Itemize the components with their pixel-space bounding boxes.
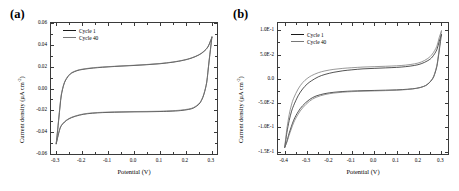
panel-b: (b) Current density (µA cm-2) Potential … [229, 0, 458, 191]
y-title-part2-b: ) [237, 76, 244, 78]
x-tick-minor [95, 23, 96, 25]
x-tick-label: -0.2 [316, 157, 340, 163]
y-tick-minor [446, 42, 448, 43]
x-tick-label: -0.3 [43, 157, 67, 163]
y-title-exp: -2 [17, 79, 22, 83]
x-tick-label: 0.1 [147, 157, 171, 163]
x-tick-minor [296, 152, 297, 154]
x-tick [329, 151, 330, 154]
panel-a-x-axis-title: Potential (V) [50, 168, 218, 175]
figure-root: (a) Current density (µA cm-2) Potential … [0, 0, 459, 191]
x-tick-minor [173, 152, 174, 154]
x-tick [441, 151, 442, 154]
y-title-exp-b: -2 [236, 79, 241, 83]
y-tick-right [214, 89, 217, 90]
x-tick-top [374, 23, 375, 26]
x-tick-top [212, 23, 213, 26]
legend-item-cycle-1-b: Cycle 1 [291, 31, 326, 38]
legend-label-cycle-40-b: Cycle 40 [307, 39, 326, 45]
y-tick-minor [446, 67, 448, 68]
y-tick [51, 23, 54, 24]
x-tick-label: 0.2 [173, 157, 197, 163]
x-tick [374, 151, 375, 154]
y-tick-label: 0.00 [17, 85, 47, 91]
legend-item-cycle-40-b: Cycle 40 [291, 38, 326, 45]
x-tick-label: -0.4 [272, 157, 296, 163]
x-tick-top [56, 23, 57, 26]
panel-b-x-axis-title: Potential (V) [277, 168, 449, 175]
y-tick-minor [215, 143, 217, 144]
y-tick-label: -1.5E-1 [244, 148, 274, 154]
y-tick-right [445, 30, 448, 31]
x-tick-label: -0.2 [69, 157, 93, 163]
x-tick-label: -0.1 [339, 157, 363, 163]
y-tick-label: -0.06 [17, 150, 47, 156]
x-tick [134, 151, 135, 154]
x-tick-label: 0.2 [406, 157, 430, 163]
y-tick [51, 45, 54, 46]
x-tick [160, 151, 161, 154]
x-tick-minor [385, 23, 386, 25]
legend-label-cycle-1: Cycle 1 [79, 28, 96, 34]
x-tick-top [329, 23, 330, 26]
x-tick-label: -0.3 [294, 157, 318, 163]
legend-swatch-cycle-1 [63, 30, 76, 31]
y-tick-minor [278, 139, 280, 140]
x-tick [397, 151, 398, 154]
panel-a: (a) Current density (µA cm-2) Potential … [0, 0, 229, 191]
x-tick-label: 0.3 [199, 157, 223, 163]
x-tick-top [285, 23, 286, 26]
x-tick [186, 151, 187, 154]
y-tick-right [214, 132, 217, 133]
x-tick-minor [69, 23, 70, 25]
y-tick-minor [215, 121, 217, 122]
x-tick [419, 151, 420, 154]
y-tick-minor [51, 56, 53, 57]
x-tick-minor [121, 23, 122, 25]
y-tick-right [214, 154, 217, 155]
x-tick [307, 151, 308, 154]
x-tick-top [397, 23, 398, 26]
x-tick-minor [318, 152, 319, 154]
y-tick-right [445, 103, 448, 104]
y-tick [51, 89, 54, 90]
x-tick-top [352, 23, 353, 26]
curve-cycle-40 [56, 36, 212, 143]
y-tick-right [445, 127, 448, 128]
x-tick-minor [408, 23, 409, 25]
x-tick [82, 151, 83, 154]
x-tick-label: 0.0 [121, 157, 145, 163]
y-tick [278, 103, 281, 104]
legend-item-cycle-1: Cycle 1 [63, 27, 98, 34]
y-tick-minor [446, 139, 448, 140]
curve-cycle-40 [285, 30, 442, 146]
x-tick-minor [430, 152, 431, 154]
x-tick-minor [69, 152, 70, 154]
y-tick-minor [446, 115, 448, 116]
curve-cycle-1 [56, 37, 212, 144]
legend-swatch-cycle-40-b [291, 41, 304, 42]
panel-a-legend: Cycle 1 Cycle 40 [63, 27, 98, 41]
y-title-part2: ) [18, 76, 25, 78]
x-tick-minor [121, 152, 122, 154]
y-tick-label: 1.0E-1 [244, 26, 274, 32]
x-tick-minor [147, 23, 148, 25]
legend-swatch-cycle-40 [63, 37, 76, 38]
y-tick-minor [278, 115, 280, 116]
y-tick-label: 0.0 [244, 75, 274, 81]
y-tick-right [445, 55, 448, 56]
y-tick [278, 55, 281, 56]
y-tick-minor [215, 34, 217, 35]
x-tick-minor [363, 23, 364, 25]
x-tick-minor [95, 152, 96, 154]
y-title-part1-b: Current density ( [237, 100, 244, 143]
y-tick-right [214, 45, 217, 46]
y-tick-right [214, 110, 217, 111]
y-tick [278, 79, 281, 80]
y-tick-minor [51, 121, 53, 122]
y-tick [51, 110, 54, 111]
y-tick-label: 0.04 [17, 41, 47, 47]
y-tick-right [445, 79, 448, 80]
y-tick [278, 152, 281, 153]
y-tick-minor [51, 34, 53, 35]
